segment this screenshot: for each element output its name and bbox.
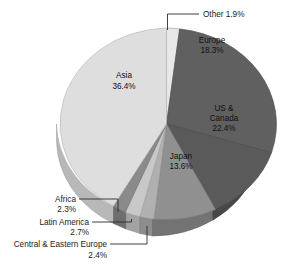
label-latin-america-name: Latin America [39, 218, 89, 227]
label-asia-name: Asia [116, 71, 132, 80]
label-central-eastern-europe-name: Central & Eastern Europe [14, 240, 108, 249]
label-us-canada-name: US & [214, 104, 234, 113]
label-japan-name: Japan [170, 152, 193, 161]
label-europe-name: Europe [199, 36, 226, 45]
label-latin-america-value: 2.7% [70, 228, 89, 237]
label-asia-value: 36.4% [112, 82, 135, 91]
label-africa-value: 2.3% [57, 205, 76, 214]
label-us-canada-name2: Canada [210, 114, 239, 123]
label-japan-value: 13.6% [169, 162, 192, 171]
leader-line-other [168, 14, 200, 30]
label-us-canada-value: 22.4% [212, 124, 235, 133]
side-wall-central-eastern-europe [140, 217, 153, 237]
pie-chart: Other 1.9% Europe 18.3% US & Canada 22.4… [0, 0, 290, 270]
pie-slices [60, 28, 276, 220]
label-other: Other 1.9% [203, 10, 244, 19]
label-africa-name: Africa [55, 195, 76, 204]
label-europe-value: 18.3% [200, 46, 223, 55]
label-central-eastern-europe-value: 2.4% [88, 251, 107, 260]
